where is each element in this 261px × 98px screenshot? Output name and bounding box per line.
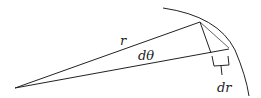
curve-arc: [163, 8, 249, 96]
polar-element-diagram: r dθ dr: [0, 0, 261, 98]
label-r: r: [120, 33, 127, 48]
label-dr: dr: [217, 80, 232, 95]
radius-line-upper: [15, 22, 200, 88]
label-dtheta: dθ: [138, 48, 154, 63]
dr-brace: [212, 56, 229, 75]
radius-line-lower: [15, 49, 229, 88]
